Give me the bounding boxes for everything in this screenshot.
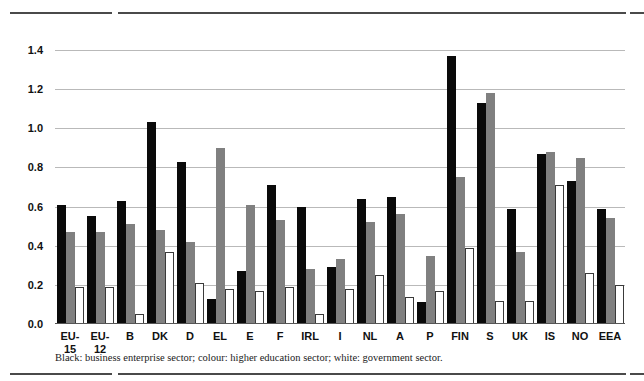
bar-irl-grey [306, 269, 315, 324]
bar-group-s [475, 50, 505, 324]
bar-el-black [207, 299, 216, 324]
bar-eu-12-grey [96, 232, 105, 324]
bottom-rule-right [630, 373, 644, 375]
bar-eu-12-black [87, 216, 96, 324]
x-label-no: NO [565, 330, 595, 356]
y-axis-tick-label: 0.4 [0, 240, 43, 251]
bar-eu-15-black [57, 205, 66, 324]
bar-p-white [435, 291, 444, 324]
bottom-rule-left [10, 373, 112, 375]
bar-eu-12-white [105, 287, 114, 324]
bar-i-white [345, 289, 354, 324]
bar-group-i [325, 50, 355, 324]
bar-group-eu-15 [55, 50, 85, 324]
x-axis-line [55, 323, 625, 324]
bar-a-grey [396, 214, 405, 324]
x-label-is: IS [535, 330, 565, 356]
y-axis-tick-label: 1.2 [0, 84, 43, 95]
bar-group-a [385, 50, 415, 324]
y-axis-tick-label: 1.4 [0, 45, 43, 56]
bar-group-no [565, 50, 595, 324]
bar-uk-white [525, 301, 534, 324]
bar-a-black [387, 197, 396, 324]
bar-is-black [537, 154, 546, 324]
bar-group-fin [445, 50, 475, 324]
x-label-uk: UK [505, 330, 535, 356]
bar-nl-white [375, 275, 384, 324]
bar-group-b [115, 50, 145, 324]
y-axis-tick-label: 0.8 [0, 162, 43, 173]
bar-d-white [195, 283, 204, 324]
bar-p-grey [426, 256, 435, 325]
y-axis-tick-label: 0.6 [0, 201, 43, 212]
bar-fin-black [447, 56, 456, 324]
bar-group-is [535, 50, 565, 324]
bar-group-el [205, 50, 235, 324]
bar-dk-grey [156, 230, 165, 324]
bar-is-grey [546, 152, 555, 324]
bar-group-f [265, 50, 295, 324]
bar-group-e [235, 50, 265, 324]
bar-i-grey [336, 259, 345, 324]
bar-dk-black [147, 122, 156, 324]
bar-no-grey [576, 158, 585, 324]
bar-eu-15-white [75, 287, 84, 324]
y-axis-tick-label: 1.0 [0, 123, 43, 134]
bar-s-grey [486, 93, 495, 324]
bar-f-white [285, 287, 294, 324]
x-label-fin: FIN [445, 330, 475, 356]
bar-groups [55, 50, 625, 324]
bar-group-eea [595, 50, 625, 324]
x-label-eea: EEA [595, 330, 625, 356]
bar-eea-white [615, 285, 624, 324]
bar-eea-black [597, 209, 606, 324]
bar-group-nl [355, 50, 385, 324]
y-axis-tick-label: 0.0 [0, 319, 43, 330]
bar-nl-grey [366, 222, 375, 324]
bar-f-grey [276, 220, 285, 324]
bar-el-grey [216, 148, 225, 324]
top-rule-main [118, 12, 626, 14]
bar-group-d [175, 50, 205, 324]
bar-uk-black [507, 209, 516, 324]
bar-group-eu-12 [85, 50, 115, 324]
bar-s-white [495, 301, 504, 324]
figure-page: 0.00.20.40.60.81.01.21.4 EU-15EU-12BDKDE… [0, 0, 644, 381]
bar-nl-black [357, 199, 366, 324]
bar-b-grey [126, 224, 135, 324]
bar-is-white [555, 185, 564, 324]
bar-el-white [225, 289, 234, 324]
bar-e-black [237, 271, 246, 324]
top-rule-right [630, 12, 644, 14]
bar-no-white [585, 273, 594, 324]
x-label-s: S [475, 330, 505, 356]
bar-chart: 0.00.20.40.60.81.01.21.4 EU-15EU-12BDKDE… [0, 22, 644, 340]
bar-uk-grey [516, 252, 525, 324]
bar-dk-white [165, 252, 174, 324]
bar-a-white [405, 297, 414, 324]
bar-fin-grey [456, 177, 465, 324]
bar-fin-white [465, 248, 474, 324]
bar-group-dk [145, 50, 175, 324]
plot-area: 0.00.20.40.60.81.01.21.4 [55, 50, 625, 324]
bar-irl-black [297, 207, 306, 324]
y-axis-tick-label: 0.2 [0, 279, 43, 290]
bar-f-black [267, 185, 276, 324]
bar-b-black [117, 201, 126, 324]
bar-d-black [177, 162, 186, 324]
bottom-rule-main [118, 373, 626, 375]
bar-eea-grey [606, 218, 615, 324]
bar-e-grey [246, 205, 255, 324]
top-rule-left [10, 12, 112, 14]
bar-s-black [477, 103, 486, 324]
bar-i-black [327, 267, 336, 324]
bar-d-grey [186, 242, 195, 324]
bar-group-irl [295, 50, 325, 324]
bar-e-white [255, 291, 264, 324]
bar-p-black [417, 302, 426, 324]
bar-group-uk [505, 50, 535, 324]
bar-group-p [415, 50, 445, 324]
bar-no-black [567, 181, 576, 324]
legend-caption: Black: business enterprise sector; colou… [55, 352, 443, 363]
bar-eu-15-grey [66, 232, 75, 324]
